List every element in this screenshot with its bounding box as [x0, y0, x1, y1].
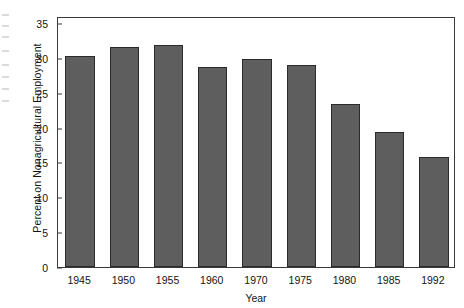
bar-1992 — [419, 157, 448, 267]
y-axis-tick-mark — [57, 268, 62, 269]
x-axis-tick-label: 1980 — [333, 274, 356, 286]
y-axis-tick-mark — [57, 128, 62, 129]
bar-chart-figure: Percent on Nonagricultural Employment 05… — [0, 0, 464, 308]
x-axis-tick-label: 1970 — [244, 274, 267, 286]
bar-1960 — [198, 67, 227, 267]
y-axis-tick-mark — [57, 233, 62, 234]
bar-1980 — [331, 104, 360, 267]
x-axis-tick-label: 1985 — [377, 274, 400, 286]
x-axis-tick-label: 1992 — [421, 274, 444, 286]
bar-1975 — [287, 65, 316, 267]
bar-1985 — [375, 132, 404, 267]
y-axis-tick-label: 35 — [36, 18, 48, 30]
bars-layer — [58, 18, 454, 267]
bar-1955 — [154, 45, 183, 267]
y-axis-tick-label: 30 — [36, 53, 48, 65]
y-axis-tick-label: 25 — [36, 88, 48, 100]
x-axis-tick-label: 1950 — [112, 274, 135, 286]
y-axis-tick-mark — [57, 58, 62, 59]
x-axis-tick-label: 1960 — [200, 274, 223, 286]
x-axis-tick-label: 1955 — [156, 274, 179, 286]
x-axis-tick-label: 1975 — [289, 274, 312, 286]
bar-1950 — [110, 47, 139, 267]
x-axis-tick-label: 1945 — [67, 274, 90, 286]
x-axis-title: Year — [57, 292, 455, 304]
plot-area — [57, 17, 455, 268]
y-axis-tick-mark — [57, 93, 62, 94]
y-axis-tick-label: 20 — [36, 123, 48, 135]
bar-1970 — [242, 59, 271, 267]
y-axis-tick-mark — [57, 163, 62, 164]
bar-1945 — [65, 56, 94, 267]
y-axis-tick-label: 5 — [42, 227, 48, 239]
scan-artifact-marks — [0, 14, 12, 102]
y-axis-tick-mark — [57, 198, 62, 199]
y-axis-tick-label: 15 — [36, 157, 48, 169]
y-axis-tick-label: 10 — [36, 192, 48, 204]
y-axis-tick-mark — [57, 23, 62, 24]
y-axis-tick-label: 0 — [42, 262, 48, 274]
